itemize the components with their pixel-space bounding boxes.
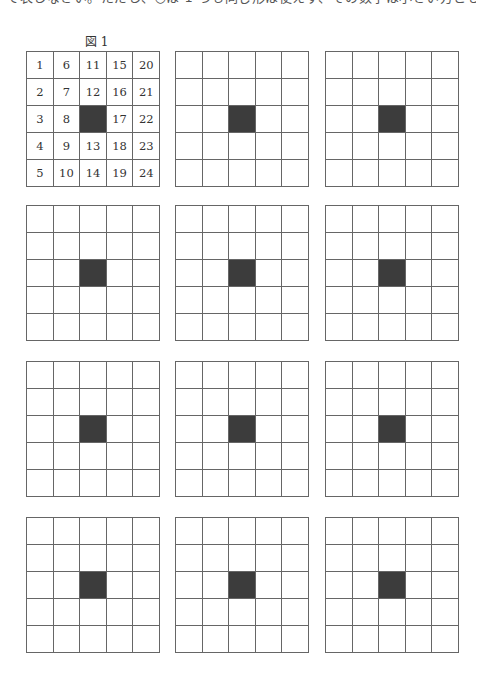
grid-cell [175,286,202,313]
grid-cell [175,51,202,78]
grid-cell [378,544,405,571]
grid-cell [281,286,308,313]
grid-cell [79,442,106,469]
grid-cell [228,313,255,340]
grid-cell [352,388,379,415]
filled-cell [228,105,255,132]
grid-cell [106,571,133,598]
grid-cell [106,598,133,625]
grid-cell [431,78,458,105]
grid-cell [132,517,159,544]
grid-cell [53,415,80,442]
grid-cell [325,625,352,652]
grid-cell [405,517,432,544]
grid-cell [325,78,352,105]
grid-cell [26,286,53,313]
grid-cell [228,625,255,652]
grid-cell [132,313,159,340]
grid-cell [202,571,229,598]
grid-cell [281,469,308,496]
grid-cell [378,361,405,388]
grid-cell [106,415,133,442]
grid-cell [228,132,255,159]
grid-cell [378,286,405,313]
answer-grid [325,517,459,653]
grid-cell [325,259,352,286]
grid-cell [378,132,405,159]
grid-cell: 22 [132,105,159,132]
grid-cell [106,442,133,469]
grid-cell [53,313,80,340]
grid-cell [175,232,202,259]
grid-cell [53,259,80,286]
grid-cell [405,232,432,259]
grid-cell [431,544,458,571]
grid-cell [175,598,202,625]
grid-cell [202,51,229,78]
grid-cell: 11 [79,51,106,78]
filled-cell [228,259,255,286]
grid-cell [255,625,282,652]
grid-cell [228,442,255,469]
grid-cell [106,469,133,496]
grid-cell [352,598,379,625]
grid-cell [255,313,282,340]
grid-cell [431,132,458,159]
grid-cell [352,625,379,652]
grid-cell [405,388,432,415]
grid-cell [228,232,255,259]
grid-cell [255,469,282,496]
grid-cell [202,361,229,388]
grid-cell [53,205,80,232]
grid-cell [378,625,405,652]
grid-cell [175,571,202,598]
grid-cell [175,259,202,286]
grid-cell [431,415,458,442]
grid-cell: 24 [132,159,159,186]
grid-cell [175,442,202,469]
grid-cell [53,598,80,625]
grid-cell [352,544,379,571]
grid-cell [175,625,202,652]
grid-cell: 6 [53,51,80,78]
grid-cell [202,78,229,105]
grid-cell [325,388,352,415]
grid-cell [255,571,282,598]
grid-cell [106,259,133,286]
grid-cell [53,286,80,313]
grid-cell [26,442,53,469]
grid-cell [281,442,308,469]
grid-cell [228,598,255,625]
grid-cell [281,232,308,259]
grid-cell [431,517,458,544]
grid-cell [325,598,352,625]
grid-cell [352,259,379,286]
grid-cell [202,132,229,159]
grid-cell [228,517,255,544]
grid-cell [255,442,282,469]
grid-cell [352,78,379,105]
answer-grid [175,205,309,341]
grid-cell [378,78,405,105]
grid-cell [405,105,432,132]
grid-cell [228,469,255,496]
grid-cell [202,313,229,340]
grid-cell [202,415,229,442]
grid-cell [106,205,133,232]
grid-cell [106,625,133,652]
grid-cell [405,415,432,442]
grid-cell: 23 [132,132,159,159]
grid-cell [106,232,133,259]
grid-cell [281,78,308,105]
grid-cell [281,259,308,286]
grid-cell [281,625,308,652]
grid-cell [352,415,379,442]
grid-cell [405,469,432,496]
grid-cell [79,544,106,571]
grid-cell [405,598,432,625]
grid-cell [325,232,352,259]
grid-cell [255,78,282,105]
grid-cell: 15 [106,51,133,78]
grid-cell [255,259,282,286]
grid-cell [281,313,308,340]
